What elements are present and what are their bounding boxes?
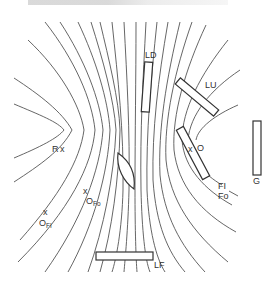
- leader-Fo: [229, 191, 238, 196]
- label-Fo: Fo: [218, 191, 229, 201]
- label-LU: LU: [205, 80, 217, 90]
- plate-LF: [96, 252, 153, 260]
- label-G: G: [253, 176, 260, 186]
- label-R: R: [52, 144, 59, 154]
- cross-OFI: x: [43, 207, 48, 217]
- label-O: O: [197, 143, 204, 153]
- cross-O: x: [188, 144, 193, 154]
- field-line-diagram: LD LU R x x O G FI Fo x O Fo x O FI LF: [0, 0, 275, 286]
- plate-G: [253, 121, 261, 175]
- cross-R: x: [60, 144, 65, 154]
- label-OFo-sub: Fo: [93, 200, 101, 207]
- label-FI: FI: [218, 181, 226, 191]
- field-lines-left: [14, 22, 120, 272]
- label-OFI-sub: FI: [46, 222, 52, 229]
- cross-OFo: x: [83, 186, 88, 196]
- lens: [118, 153, 135, 189]
- label-LF: LF: [154, 260, 165, 270]
- label-OFo: O: [86, 196, 93, 206]
- label-OFI: O: [39, 218, 46, 228]
- plate-LD: [141, 62, 152, 112]
- field-lines-center: [112, 22, 165, 272]
- label-LD: LD: [145, 50, 157, 60]
